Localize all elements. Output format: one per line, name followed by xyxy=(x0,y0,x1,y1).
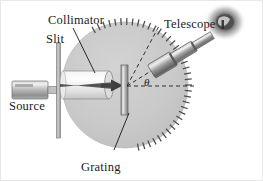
scale-tick xyxy=(185,79,192,80)
light-source xyxy=(12,81,57,99)
label-slit: Slit xyxy=(46,33,64,46)
diffraction-grating xyxy=(121,65,128,115)
scale-tick xyxy=(185,90,192,91)
spectrometer-diagram-svg xyxy=(1,1,263,181)
scale-tick xyxy=(132,18,133,25)
label-source: Source xyxy=(9,100,45,113)
label-telescope: Telescope xyxy=(164,18,216,31)
label-grating: Grating xyxy=(81,161,121,174)
spectrometer-figure: Collimator Slit Telescope Source Grating… xyxy=(0,0,263,181)
label-collimator: Collimator xyxy=(48,14,104,27)
slit-bar xyxy=(57,43,61,138)
label-angle-theta: θ xyxy=(144,77,150,88)
